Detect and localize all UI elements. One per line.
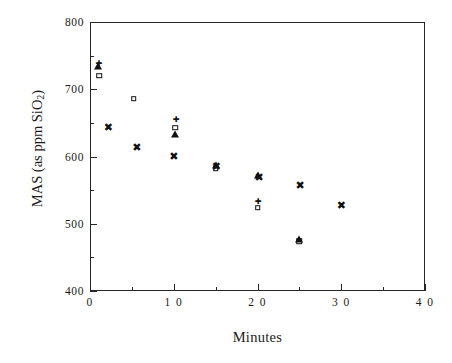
y-axis-title: MAS (as ppm SiO2) (29, 29, 46, 269)
x-axis-tick-label: 3 0 (332, 296, 351, 308)
plot-frame (90, 22, 425, 291)
y-tick-label-group: 400500600700800 (44, 22, 84, 291)
x-tick-label-group: 01 02 03 04 0 (90, 296, 425, 312)
y-axis-title-prefix: MAS (as ppm SiO (29, 100, 45, 208)
x-axis-tick-label: 0 (86, 296, 93, 308)
x-axis-tick-label: 4 0 (416, 296, 435, 308)
x-axis-tick-label: 1 0 (164, 296, 183, 308)
y-axis-tick-label: 500 (65, 218, 84, 230)
chart-page: MAS (as ppm SiO2) 400500600700800 ✖✖✖✖✖✖… (0, 0, 452, 363)
y-axis-tick-label: 800 (65, 16, 84, 28)
y-axis-major-tick (90, 291, 97, 292)
y-axis-tick-label: 700 (65, 83, 84, 95)
y-axis-title-suffix: ) (29, 90, 45, 95)
y-axis-tick-label: 400 (65, 285, 84, 297)
x-axis-major-tick (425, 284, 426, 291)
x-axis-tick-label: 2 0 (248, 296, 267, 308)
x-axis-title: Minutes (90, 329, 425, 346)
y-axis-tick-label: 600 (65, 151, 84, 163)
